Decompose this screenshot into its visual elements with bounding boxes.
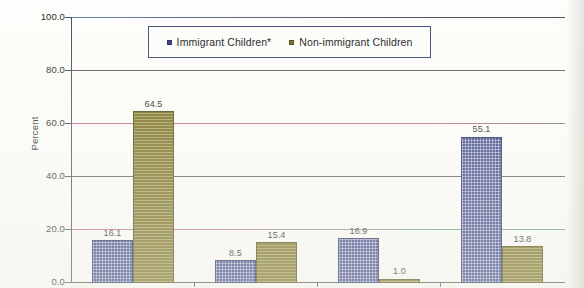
legend-swatch-icon (167, 40, 172, 45)
legend-item-immigrant-children: Immigrant Children* (167, 36, 272, 48)
bar-nonimmigrant-1 (133, 111, 174, 283)
bar-immigrant-1 (92, 240, 133, 283)
y-tick-80: 80.0 (12, 70, 65, 71)
bar-nonimmigrant-4 (502, 246, 543, 283)
y-tick-label-60: 60.0 (19, 117, 65, 128)
bar-value-label: 15.4 (246, 230, 307, 240)
bar-chart: Percent 100.0 80.0 60.0 40.0 20.0 0.0 16… (0, 0, 584, 288)
y-tick-40: 40.0 (12, 176, 65, 177)
chart-legend: Immigrant Children* Non-immigrant Childr… (148, 26, 431, 58)
bar-value-label: 55.1 (451, 124, 512, 134)
y-tick-0: 0.0 (12, 282, 65, 283)
y-tick-label-0: 0.0 (19, 276, 65, 287)
legend-swatch-icon (289, 40, 294, 45)
bar-nonimmigrant-2 (256, 242, 297, 283)
y-axis-title: Percent (29, 94, 40, 174)
y-tick-label-80: 80.0 (19, 64, 65, 75)
y-tick-label-20: 20.0 (19, 223, 65, 234)
y-tick-label-40: 40.0 (19, 170, 65, 181)
legend-label: Non-immigrant Children (299, 36, 412, 48)
bar-immigrant-2 (215, 260, 256, 283)
y-tick-20: 20.0 (12, 229, 65, 230)
bar-immigrant-3 (338, 238, 379, 283)
y-tick-label-100: 100.0 (19, 11, 65, 22)
y-tick-60: 60.0 (12, 123, 65, 124)
y-tick-100: 100.0 (12, 17, 65, 18)
legend-item-non-immigrant-children: Non-immigrant Children (289, 36, 412, 48)
bar-value-label: 1.0 (369, 266, 430, 276)
legend-label: Immigrant Children* (177, 36, 272, 48)
page-edge-shadow (566, 0, 584, 288)
bar-value-label: 64.5 (123, 99, 184, 109)
bar-nonimmigrant-3 (379, 279, 420, 283)
bar-value-label: 16.9 (328, 226, 389, 236)
bar-immigrant-4 (461, 137, 502, 284)
bar-value-label: 13.8 (492, 234, 553, 244)
